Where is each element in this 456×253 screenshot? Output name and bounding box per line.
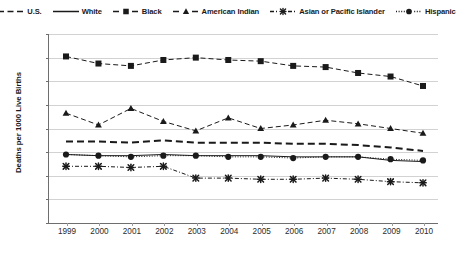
y-tick-mark — [46, 223, 49, 224]
dashed-line-swatch — [0, 7, 24, 16]
x-tick-mark — [67, 223, 68, 226]
legend-item-u-s[interactable]: U.S. — [0, 7, 42, 16]
x-tick-mark — [294, 223, 295, 226]
x-tick-mark — [262, 223, 263, 226]
x-tick-mark — [327, 223, 328, 226]
legend-label: U.S. — [27, 7, 41, 16]
solid-line-swatch — [53, 7, 79, 16]
x-tick-mark — [392, 223, 393, 226]
x-tick-mark — [132, 223, 133, 226]
series-american-indian — [63, 105, 427, 136]
legend-label: Black — [142, 7, 162, 16]
dashed-triangle-swatch — [173, 7, 199, 16]
legend-label: White — [82, 7, 102, 16]
series-white — [66, 154, 423, 161]
x-tick-mark — [197, 223, 198, 226]
x-tick-mark — [359, 223, 360, 226]
legend-label: Hispanic — [425, 7, 456, 16]
legend-item-asian-or-pacific-islander[interactable]: Asian or Pacific Islander — [270, 7, 385, 16]
series-asian-or-pacific-islander — [63, 163, 426, 186]
legend-item-hispanic[interactable]: Hispanic — [396, 7, 456, 16]
series-black — [63, 53, 426, 89]
dashed-square-swatch — [113, 7, 139, 16]
dotted-circle-swatch — [396, 7, 422, 16]
series-layer — [48, 34, 437, 223]
legend-item-white[interactable]: White — [53, 7, 102, 16]
legend-label: Asian or Pacific Islander — [299, 7, 385, 16]
x-tick-mark — [99, 223, 100, 226]
plot-area: 0246810121416199920002001200220032004200… — [48, 34, 437, 223]
series-u-s — [66, 140, 423, 151]
dashdot-x-swatch — [270, 7, 296, 16]
legend-label: American Indian — [202, 7, 260, 16]
x-tick-mark — [424, 223, 425, 226]
x-tick-mark — [164, 223, 165, 226]
legend-item-black[interactable]: Black — [113, 7, 162, 16]
legend-item-american-indian[interactable]: American Indian — [173, 7, 260, 16]
y-axis-title: Deaths per 1000 Live Births — [14, 48, 23, 198]
x-tick-mark — [229, 223, 230, 226]
chart-legend: U.S.WhiteBlackAmerican IndianAsian or Pa… — [0, 0, 454, 22]
x-tick-label: 2010 — [402, 227, 446, 236]
series-hispanic — [63, 151, 426, 163]
